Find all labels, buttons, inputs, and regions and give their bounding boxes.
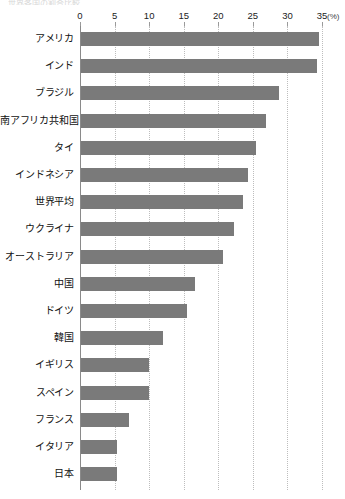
- category-label-7: ウクライナ: [0, 221, 74, 237]
- x-axis-labels: 05101520253035(%): [0, 10, 345, 24]
- bar-8: [81, 250, 223, 264]
- x-tick-label-25: 25: [248, 10, 259, 22]
- category-label-13: スペイン: [0, 385, 74, 401]
- x-tick-mark-5: [115, 22, 116, 26]
- category-label-16: 日本: [0, 466, 74, 482]
- bar-10: [81, 304, 187, 318]
- x-tick-mark-10: [149, 22, 150, 26]
- bar-row: インドネシア: [0, 167, 345, 183]
- bar-14: [81, 413, 129, 427]
- x-tick-label-15: 15: [178, 10, 189, 22]
- x-tick-label-20: 20: [213, 10, 224, 22]
- category-label-15: イタリア: [0, 439, 74, 455]
- bar-5: [81, 168, 248, 182]
- category-label-0: アメリカ: [0, 31, 74, 47]
- bar-row: ウクライナ: [0, 221, 345, 237]
- bar-11: [81, 331, 163, 345]
- category-label-11: 韓国: [0, 330, 74, 346]
- bar-row: ブラジル: [0, 85, 345, 101]
- category-label-8: オーストラリア: [0, 249, 74, 265]
- bar-row: 日本: [0, 466, 345, 482]
- bar-row: フランス: [0, 412, 345, 428]
- bar-12: [81, 358, 149, 372]
- bar-3: [81, 114, 266, 128]
- bar-4: [81, 141, 256, 155]
- category-label-10: ドイツ: [0, 303, 74, 319]
- bar-row: 南アフリカ共和国: [0, 113, 345, 129]
- bar-15: [81, 440, 117, 454]
- bar-row: スペイン: [0, 385, 345, 401]
- bar-2: [81, 86, 279, 100]
- bar-row: 中国: [0, 276, 345, 292]
- bar-1: [81, 59, 317, 73]
- category-label-1: インド: [0, 58, 74, 74]
- bar-row: イタリア: [0, 439, 345, 455]
- category-label-14: フランス: [0, 412, 74, 428]
- category-label-9: 中国: [0, 276, 74, 292]
- bar-0: [81, 32, 319, 46]
- x-tick-mark-25: [253, 22, 254, 26]
- bar-row: タイ: [0, 140, 345, 156]
- bar-6: [81, 195, 243, 209]
- category-label-5: インドネシア: [0, 167, 74, 183]
- category-label-6: 世界平均: [0, 194, 74, 210]
- bar-row: インド: [0, 58, 345, 74]
- cropped-title: 世界各国の割合比較: [8, 0, 178, 5]
- category-label-12: イギリス: [0, 357, 74, 373]
- category-label-2: ブラジル: [0, 85, 74, 101]
- axis-unit-label: (%): [327, 11, 339, 23]
- x-tick-mark-35: [322, 22, 323, 26]
- bar-13: [81, 386, 149, 400]
- bar-row: 韓国: [0, 330, 345, 346]
- bar-chart: 世界各国の割合比較 05101520253035(%) アメリカインドブラジル南…: [0, 0, 345, 499]
- bar-7: [81, 222, 234, 236]
- x-tick-label-30: 30: [282, 10, 293, 22]
- x-tick-label-35: 35: [317, 10, 328, 22]
- bar-row: ドイツ: [0, 303, 345, 319]
- x-tick-mark-15: [184, 22, 185, 26]
- x-tick-mark-20: [218, 22, 219, 26]
- bar-row: イギリス: [0, 357, 345, 373]
- category-label-4: タイ: [0, 140, 74, 156]
- x-tick-mark-30: [287, 22, 288, 26]
- bar-row: オーストラリア: [0, 249, 345, 265]
- category-label-3: 南アフリカ共和国: [0, 113, 74, 129]
- bar-9: [81, 277, 195, 291]
- x-tick-label-0: 0: [77, 10, 82, 22]
- x-tick-label-10: 10: [144, 10, 155, 22]
- x-tick-label-5: 5: [112, 10, 117, 22]
- bar-row: 世界平均: [0, 194, 345, 210]
- bar-16: [81, 467, 117, 481]
- bar-row: アメリカ: [0, 31, 345, 47]
